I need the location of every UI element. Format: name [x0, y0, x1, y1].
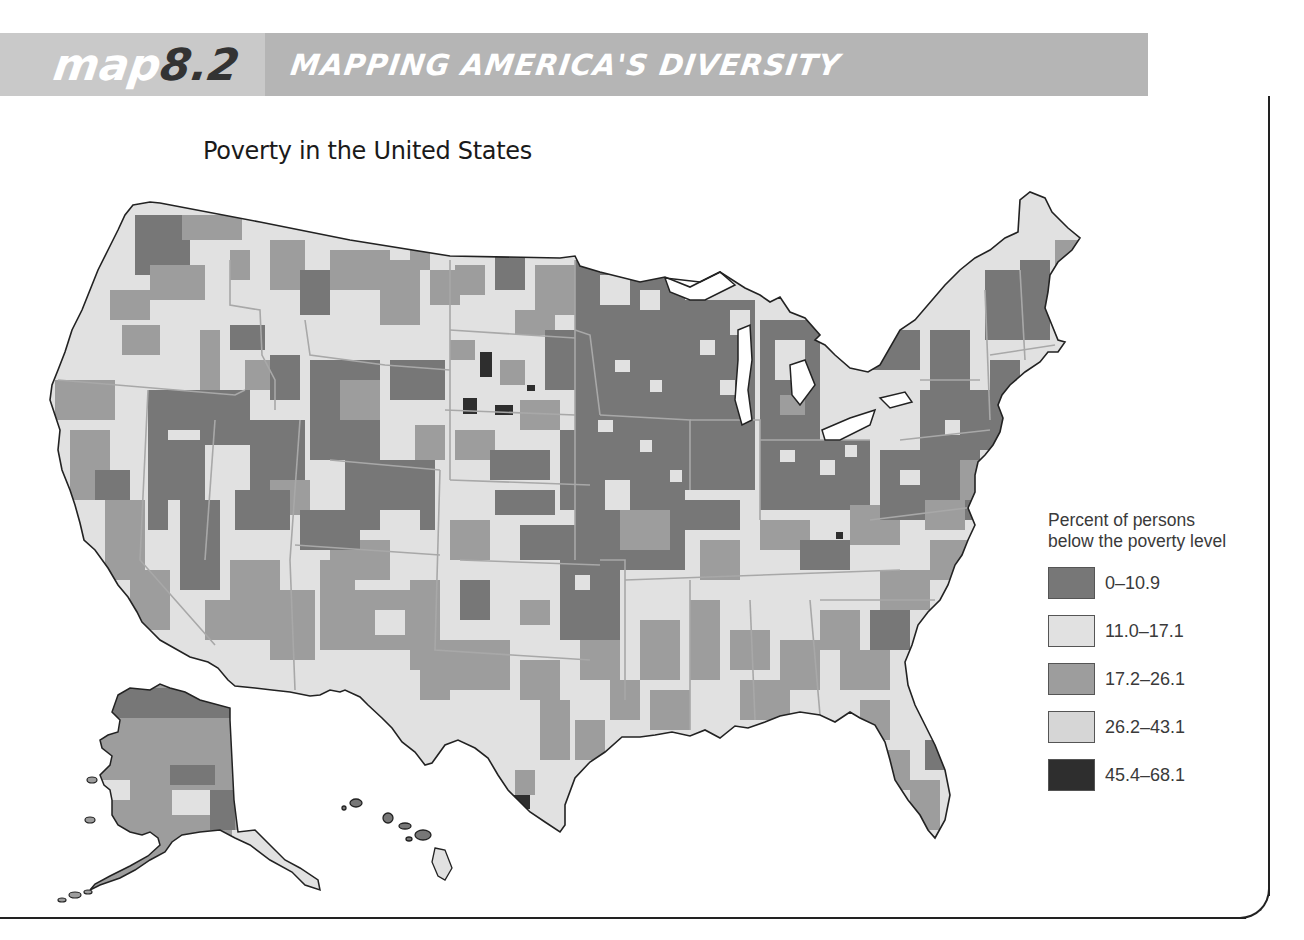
legend-swatch — [1048, 615, 1095, 647]
map-number-block: map8.2 — [0, 33, 265, 96]
frame-border-right — [1268, 96, 1270, 896]
series-title: MAPPING AMERICA'S DIVERSITY — [289, 48, 843, 82]
alaska-fill — [80, 680, 340, 900]
legend-label: 26.2–43.1 — [1105, 717, 1185, 738]
legend-item: 11.0–17.1 — [1048, 615, 1226, 647]
legend-title-line2: below the poverty level — [1048, 531, 1226, 552]
legend: Percent of persons below the poverty lev… — [1048, 510, 1226, 807]
legend-item: 17.2–26.1 — [1048, 663, 1226, 695]
legend-swatch — [1048, 711, 1095, 743]
legend-title: Percent of persons below the poverty lev… — [1048, 510, 1226, 552]
legend-items: 0–10.9 11.0–17.1 17.2–26.1 26.2–43.1 45.… — [1048, 567, 1226, 791]
legend-item: 45.4–68.1 — [1048, 759, 1226, 791]
legend-label: 45.4–68.1 — [1105, 765, 1185, 786]
header-bar: map8.2 MAPPING AMERICA'S DIVERSITY — [0, 33, 1148, 96]
legend-label: 11.0–17.1 — [1105, 621, 1184, 642]
legend-swatch — [1048, 663, 1095, 695]
series-title-block: MAPPING AMERICA'S DIVERSITY — [265, 33, 1148, 96]
aleutian-islands — [58, 777, 97, 902]
us-poverty-map — [0, 160, 1100, 920]
legend-label: 0–10.9 — [1105, 573, 1160, 594]
map-number: 8.2 — [157, 39, 242, 90]
legend-title-line1: Percent of persons — [1048, 510, 1226, 531]
hawaii — [342, 799, 452, 880]
map-word: map — [50, 39, 164, 90]
legend-item: 0–10.9 — [1048, 567, 1226, 599]
legend-swatch — [1048, 759, 1095, 791]
frame-border-corner — [1222, 871, 1270, 919]
legend-item: 26.2–43.1 — [1048, 711, 1226, 743]
legend-label: 17.2–26.1 — [1105, 669, 1185, 690]
legend-swatch — [1048, 567, 1095, 599]
